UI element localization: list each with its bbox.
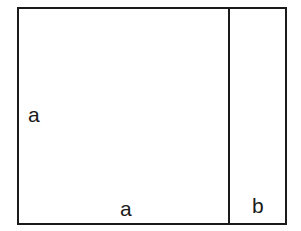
label-bottom-a: a bbox=[120, 198, 132, 219]
outer-rectangle bbox=[17, 7, 287, 225]
label-bottom-b: b bbox=[252, 195, 264, 216]
label-left-side: a bbox=[28, 104, 40, 125]
divider-line bbox=[228, 7, 230, 225]
